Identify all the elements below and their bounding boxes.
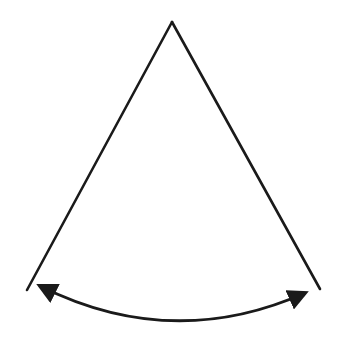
diagram-canvas (0, 0, 346, 337)
right-side-line (172, 22, 320, 289)
left-side-line (27, 22, 172, 290)
sector-diagram (0, 0, 346, 337)
angle-arc-double-arrow-icon (40, 286, 305, 321)
